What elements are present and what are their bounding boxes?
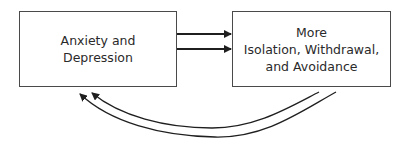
arrows-layer	[0, 0, 409, 146]
arrow-curved-icon	[80, 92, 336, 137]
arrow-curved-icon	[92, 92, 319, 128]
forward-arrows	[177, 34, 231, 49]
feedback-arrows	[80, 92, 336, 137]
